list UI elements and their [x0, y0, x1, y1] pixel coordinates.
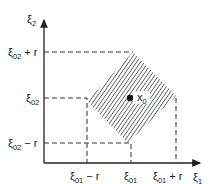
guide-xi02 — [44, 98, 87, 163]
y-tick-xi02-minus-r: ξ02 − r — [8, 137, 38, 152]
y-tick-xi02-plus-r: ξ02 + r — [8, 46, 38, 61]
x-tick-xi01-minus-r: ξ01 − r — [70, 170, 100, 184]
x-axis-label: ξ1 — [193, 171, 202, 184]
diagram-canvas: x0 ξ2 ξ1 ξ02 + r ξ02 ξ02 − r ξ01 − r ξ01… — [0, 0, 214, 184]
x-tick-xi01-plus-r: ξ01 + r — [153, 170, 183, 184]
center-point-x0 — [127, 95, 133, 101]
y-tick-xi02: ξ02 — [26, 92, 39, 107]
y-axis-label: ξ2 — [27, 13, 36, 28]
x-tick-xi01: ξ01 — [124, 170, 137, 184]
